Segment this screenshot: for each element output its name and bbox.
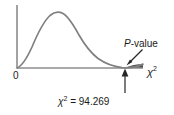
test-statistic-value: = 94.269 [67,96,109,107]
p-value-label-suffix: -value [131,38,158,49]
p-value-label: P-value [124,39,158,49]
chi-square-figure: 0 χ2 P-value χ2 = 94.269 [0,0,174,115]
test-statistic-label: χ2 = 94.269 [58,95,109,107]
origin-label: 0 [13,71,19,81]
x-axis-label: χ2 [147,65,157,78]
x-axis-label-exponent: 2 [153,65,157,72]
p-value-arrow-shaft [130,50,143,63]
p-value-label-p: P [124,38,131,49]
test-statistic-arrowhead [122,69,129,77]
